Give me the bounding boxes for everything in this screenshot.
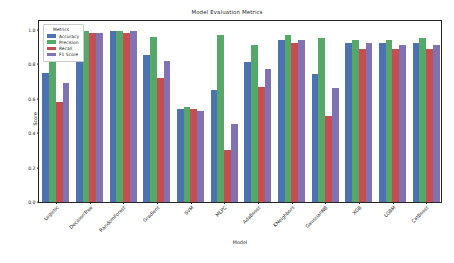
- bar-group: [413, 21, 440, 202]
- bar: [413, 43, 420, 202]
- bar: [217, 35, 224, 202]
- legend-label: Accuracy: [59, 34, 79, 39]
- chart-legend: Metrics AccuracyPrecisionRecallF1 Score: [43, 24, 84, 62]
- bar: [96, 33, 103, 202]
- bar: [177, 109, 184, 202]
- bar: [143, 55, 150, 202]
- y-tick-mark: [37, 29, 39, 30]
- x-tick-mark: [56, 202, 57, 204]
- bar: [244, 62, 251, 202]
- legend-swatch: [47, 34, 56, 37]
- x-tick-mark: [123, 202, 124, 204]
- legend-entry: F1 Score: [47, 52, 79, 57]
- x-axis-label: Model: [39, 240, 441, 245]
- bar-group: [177, 21, 204, 202]
- bar-group: [211, 21, 238, 202]
- bar: [291, 43, 298, 202]
- y-tick-mark: [37, 98, 39, 99]
- bar: [366, 43, 373, 202]
- y-tick-mark: [37, 167, 39, 168]
- bar: [49, 42, 56, 202]
- bar: [224, 150, 231, 202]
- bar: [332, 88, 339, 202]
- bar: [130, 31, 137, 202]
- bar: [211, 90, 218, 202]
- bar: [345, 43, 352, 202]
- bar-group: [379, 21, 406, 202]
- bar: [231, 124, 238, 202]
- x-tick-label-adaboost: AdaBoost: [242, 205, 262, 225]
- legend-entry: Precision: [47, 40, 79, 45]
- x-tick-label-gaussiannb: GaussianNB: [305, 205, 329, 229]
- y-tick-mark: [37, 64, 39, 65]
- x-tick-label-logistic: Logistic: [43, 205, 59, 221]
- chart-title: Model Evaluation Metrics: [0, 9, 454, 15]
- bar-group: [143, 21, 170, 202]
- legend-swatch: [47, 40, 56, 43]
- bar: [265, 69, 272, 202]
- bar: [197, 111, 204, 202]
- x-tick-label-gradient: Gradient: [142, 205, 160, 223]
- legend-title: Metrics: [53, 27, 79, 32]
- bar: [251, 45, 258, 202]
- y-tick-mark: [37, 202, 39, 203]
- x-tick-mark: [359, 202, 360, 204]
- plot-area: 0.00.20.40.60.81.0LogisticDecisionTreeRa…: [39, 21, 441, 202]
- bar: [110, 31, 117, 202]
- legend-entries: AccuracyPrecisionRecallF1 Score: [47, 34, 79, 58]
- bar: [116, 31, 123, 202]
- bar: [359, 49, 366, 202]
- bar: [184, 107, 191, 202]
- chart-figure: Model Evaluation Metrics Score Model 0.0…: [0, 0, 454, 263]
- x-tick-label-randomforest: RandomForest: [99, 205, 127, 233]
- bar: [433, 45, 440, 202]
- bar: [164, 61, 171, 202]
- bar: [278, 40, 285, 202]
- legend-label: Recall: [59, 46, 72, 51]
- bar: [285, 35, 292, 202]
- bar: [258, 87, 265, 202]
- bar: [399, 45, 406, 202]
- legend-entry: Accuracy: [47, 34, 79, 39]
- bar-group: [345, 21, 372, 202]
- bar: [56, 102, 63, 202]
- bar: [150, 37, 157, 202]
- legend-label: Precision: [59, 40, 79, 45]
- bar: [63, 83, 70, 202]
- legend-entry: Recall: [47, 46, 79, 51]
- bar-group: [110, 21, 137, 202]
- bar: [352, 40, 359, 202]
- x-tick-label-svm: SVM: [183, 205, 194, 216]
- bar-group: [278, 21, 305, 202]
- bar: [379, 43, 386, 202]
- bar: [42, 73, 49, 202]
- bar: [312, 74, 319, 202]
- bar-group: [312, 21, 339, 202]
- legend-label: F1 Score: [59, 52, 78, 57]
- bar: [89, 33, 96, 202]
- x-tick-label-lgbm: LGBM: [383, 205, 396, 218]
- bar: [426, 49, 433, 202]
- bar: [318, 38, 325, 202]
- bar: [157, 78, 164, 202]
- x-tick-mark: [325, 202, 326, 204]
- x-tick-label-xgb: XGB: [352, 205, 363, 216]
- bar: [325, 116, 332, 202]
- x-tick-label-catboost: CatBoost: [411, 205, 430, 224]
- bar: [392, 49, 399, 202]
- chart-axes: Score Model 0.00.20.40.60.81.0LogisticDe…: [38, 20, 442, 203]
- bar: [190, 109, 197, 202]
- x-tick-label-decisiontree: DecisionTree: [68, 205, 93, 230]
- y-tick-mark: [37, 133, 39, 134]
- bar: [123, 33, 130, 202]
- x-tick-label-kneighbors: KNeighbors: [272, 205, 295, 228]
- legend-swatch: [47, 53, 56, 56]
- x-tick-mark: [224, 202, 225, 204]
- bar: [386, 40, 393, 202]
- bar: [298, 40, 305, 202]
- legend-swatch: [47, 47, 56, 50]
- y-axis-label: Score: [33, 112, 38, 125]
- bar: [419, 38, 426, 202]
- x-tick-mark: [157, 202, 158, 204]
- x-tick-mark: [426, 202, 427, 204]
